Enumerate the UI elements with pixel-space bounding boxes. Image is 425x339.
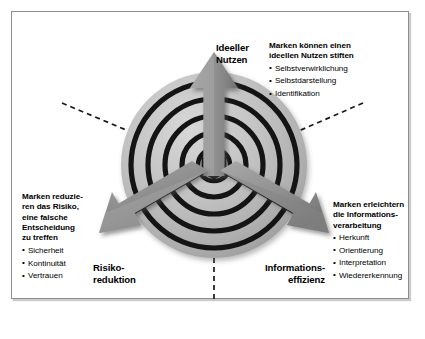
- block-list-risikoreduktion: Sicherheit Kontinuität Vertrauen: [22, 246, 108, 281]
- figure-root: Ideeller Nutzen Risiko- reduktion Inform…: [0, 0, 425, 339]
- block-heading-ideeller-nutzen: Marken können einen ideellen Nutzen stif…: [269, 41, 405, 62]
- list-item: Wiedererkennung: [333, 271, 425, 281]
- list-item: Orientierung: [333, 246, 425, 256]
- text-block-ideeller-nutzen: Marken können einen ideellen Nutzen stif…: [269, 41, 405, 99]
- axis-label-informationseffizienz: Informations- effizienz: [247, 262, 325, 285]
- block-list-informationseffizienz: Herkunft Orientierung Interpretation Wie…: [333, 233, 425, 281]
- list-item: Identifikation: [269, 89, 405, 99]
- list-item: Selbstdarstellung: [269, 76, 405, 86]
- block-heading-risikoreduktion: Marken reduzie- ren das Risiko, eine fal…: [22, 192, 108, 244]
- axis-label-ideeller-nutzen: Ideeller Nutzen: [216, 42, 249, 65]
- list-item: Selbstverwirklichung: [269, 64, 405, 74]
- block-list-ideeller-nutzen: Selbstverwirklichung Selbstdarstellung I…: [269, 64, 405, 99]
- text-block-risikoreduktion: Marken reduzie- ren das Risiko, eine fal…: [22, 192, 108, 281]
- list-item: Kontinuität: [22, 259, 108, 269]
- list-item: Herkunft: [333, 233, 425, 243]
- block-heading-informationseffizienz: Marken erleichtern die Informations- ver…: [333, 200, 425, 231]
- list-item: Vertrauen: [22, 271, 108, 281]
- list-item: Interpretation: [333, 258, 425, 268]
- list-item: Sicherheit: [22, 246, 108, 256]
- text-block-informationseffizienz: Marken erleichtern die Informations- ver…: [333, 200, 425, 281]
